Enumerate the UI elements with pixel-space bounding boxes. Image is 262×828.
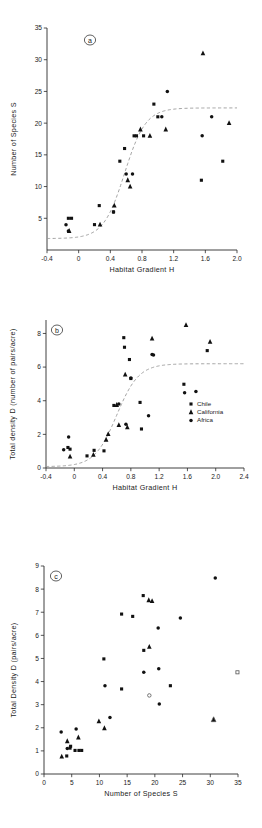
legend-entry-africa: Africa: [189, 416, 213, 423]
panel-b-axes: -0.400.40.81.21.62.02.402468Habitat Grad…: [8, 320, 249, 492]
panel-a-svg: -0.400.40.81.21.62.05101520253035Habitat…: [0, 0, 262, 290]
x-axis-title: Habitat Gradient H: [110, 265, 175, 274]
x-tick-label: 1.6: [201, 255, 210, 262]
data-point-triangle: [97, 718, 102, 723]
y-tick-label: 15: [35, 151, 43, 158]
data-point-circle: [124, 423, 128, 427]
data-point-square: [68, 448, 71, 451]
data-point-circle: [67, 229, 71, 233]
x-tick-label: 1.2: [155, 473, 164, 480]
data-point-square: [85, 454, 88, 457]
y-tick-label: 5: [38, 215, 42, 222]
data-point-circle: [129, 376, 133, 380]
legend-entry-chile: Chile: [189, 400, 211, 407]
data-point-square: [80, 749, 83, 752]
data-point-circle: [103, 684, 107, 688]
data-point-square: [70, 217, 73, 220]
data-point-square: [69, 745, 72, 748]
data-point-circle: [131, 172, 135, 176]
y-tick-label: 25: [35, 88, 43, 95]
x-tick-label: 35: [234, 779, 242, 786]
data-point-triangle: [98, 222, 103, 227]
data-point-triangle: [76, 735, 81, 740]
data-point-square: [120, 613, 123, 616]
data-point-triangle: [148, 133, 153, 138]
data-point-square: [123, 147, 126, 150]
data-point-square: [102, 449, 105, 452]
panel-b-label: b: [51, 325, 62, 335]
data-point-triangle: [117, 422, 122, 427]
data-point-triangle: [227, 120, 232, 125]
y-tick-label: 7: [35, 609, 39, 616]
data-point-circle: [112, 210, 116, 214]
data-point-square: [169, 684, 172, 687]
data-point-circle: [157, 667, 161, 671]
data-point-circle: [74, 727, 78, 731]
data-point-triangle: [146, 597, 151, 602]
panel-b-legend: ChileCaliforniaAfrica: [189, 400, 224, 423]
data-point-circle: [158, 702, 162, 706]
data-point-triangle: [163, 127, 168, 132]
data-point-circle: [64, 223, 68, 227]
data-point-square: [142, 594, 145, 597]
y-tick-label: 0: [35, 770, 39, 777]
y-tick-label: 4: [35, 678, 39, 685]
data-point-circle: [62, 448, 66, 452]
data-point-square: [156, 115, 159, 118]
x-axis-title: Number of Species S: [104, 789, 178, 798]
data-point-triangle: [147, 644, 152, 649]
y-tick-label: 6: [35, 632, 39, 639]
x-tick-label: 0.4: [106, 255, 115, 262]
legend-label: California: [197, 408, 224, 415]
panel-a-data-points: [64, 50, 231, 232]
data-point-triangle: [68, 454, 73, 459]
data-point-triangle: [184, 322, 189, 327]
y-tick-label: 6: [37, 363, 41, 370]
data-point-triangle: [106, 431, 111, 436]
data-point-circle: [150, 353, 154, 357]
data-point-circle: [189, 419, 193, 423]
data-point-triangle: [112, 203, 117, 208]
data-point-triangle: [102, 725, 107, 730]
x-tick-label: 10: [96, 779, 104, 786]
x-tick-label: 0.4: [98, 473, 107, 480]
panel-c-density-vs-species: 051015202530350123456789Number of Specie…: [0, 550, 262, 828]
data-point-square: [140, 427, 143, 430]
y-tick-label: 5: [35, 655, 39, 662]
y-tick-label: 8: [35, 586, 39, 593]
panel-a-fit-curve: [47, 108, 237, 239]
legend-entry-california: California: [189, 408, 224, 415]
x-tick-label: 0: [42, 779, 46, 786]
data-point-square: [67, 217, 70, 220]
y-tick-label: 8: [37, 330, 41, 337]
y-tick-label: 30: [35, 56, 43, 63]
x-tick-label: 1.2: [169, 255, 178, 262]
data-point-square-open: [236, 671, 239, 674]
panel-c-axes: 051015202530350123456789Number of Specie…: [9, 562, 242, 798]
x-tick-label: 2.4: [239, 473, 248, 480]
data-point-circle: [166, 90, 170, 94]
data-point-circle: [124, 172, 128, 176]
y-axis-title: Number of Species S: [9, 102, 18, 176]
data-point-square: [139, 401, 142, 404]
y-tick-label: 2: [35, 724, 39, 731]
data-point-circle: [67, 435, 71, 439]
y-axis-title: Total density D (number of pairs/acre): [8, 328, 17, 459]
panel-c-data-points: [59, 576, 239, 758]
x-tick-label: 0.8: [137, 255, 146, 262]
x-axis-title: Habitat Gradient H: [113, 483, 178, 492]
data-point-square: [142, 649, 145, 652]
data-point-circle: [117, 402, 121, 406]
data-point-square: [98, 204, 101, 207]
data-point-square: [182, 383, 185, 386]
x-tick-label: 25: [179, 779, 187, 786]
data-point-circle: [160, 115, 164, 119]
data-point-circle: [66, 747, 70, 751]
data-point-triangle: [59, 754, 64, 759]
data-point-circle: [214, 576, 218, 580]
x-tick-label: 0.8: [126, 473, 135, 480]
data-point-triangle: [201, 50, 206, 55]
data-point-square: [142, 134, 145, 137]
legend-label: Chile: [197, 400, 212, 407]
x-tick-label: 2.0: [211, 473, 220, 480]
